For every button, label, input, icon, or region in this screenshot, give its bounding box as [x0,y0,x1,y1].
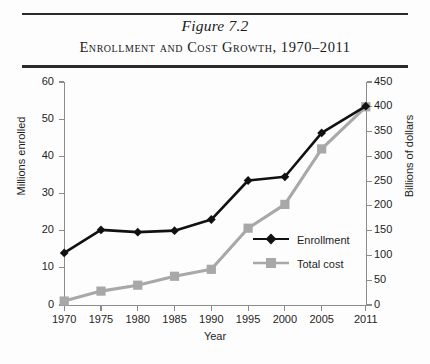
data-point [96,287,105,296]
data-point [207,265,216,274]
data-point [170,272,179,281]
square-marker-icon [251,255,291,271]
data-point [280,200,289,209]
data-point [170,226,179,235]
data-point [317,144,326,153]
data-point [133,228,142,237]
chart-series-layer [0,0,430,364]
data-point [133,281,142,290]
legend-label-total-cost: Total cost [297,258,343,270]
data-point [60,296,69,305]
legend-label-enrollment: Enrollment [297,234,350,246]
diamond-marker-icon [251,231,291,247]
figure-container: Figure 7.2 Enrollment and Cost Growth, 1… [0,0,430,364]
